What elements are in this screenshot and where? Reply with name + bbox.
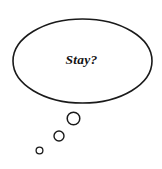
thought-bubble-illustration: Stay? — [0, 0, 162, 169]
thought-bubble-text: Stay? — [66, 52, 98, 67]
tail-bubble-small-icon — [36, 147, 43, 154]
illustration-canvas: Stay? — [0, 0, 162, 169]
tail-bubble-medium-icon — [54, 131, 64, 141]
tail-bubble-large-icon — [67, 112, 80, 125]
